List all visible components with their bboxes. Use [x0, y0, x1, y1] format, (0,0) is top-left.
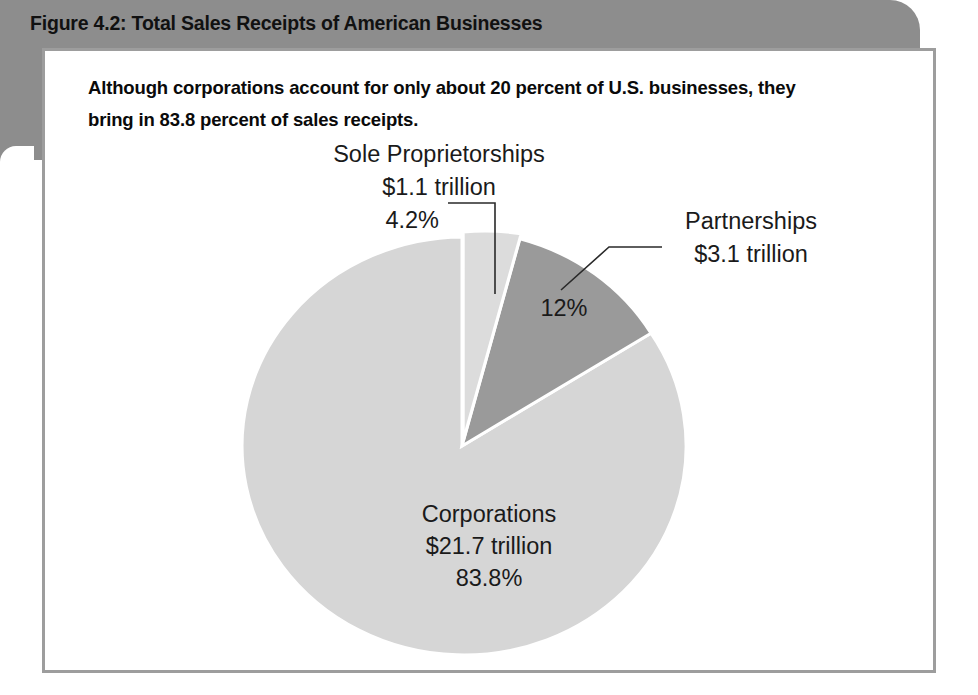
figure-content-card: Although corporations account for only a… [42, 48, 978, 695]
title-bar-notch-round [0, 146, 34, 180]
label-sole-proprietorships-value: $1.1 trillion [382, 174, 496, 200]
label-sole-proprietorships-percent: 4.2% [385, 207, 439, 233]
pie-chart: Sole Proprietorships $1.1 trillion 4.2% … [42, 48, 936, 673]
figure-title-bar: Figure 4.2: Total Sales Receipts of Amer… [0, 0, 920, 48]
label-corporations-percent: 83.8% [456, 565, 523, 591]
label-partnerships-value: $3.1 trillion [694, 241, 808, 267]
pie-chart-svg: Sole Proprietorships $1.1 trillion 4.2% … [42, 48, 936, 673]
label-sole-proprietorships-name: Sole Proprietorships [333, 141, 545, 167]
label-corporations-name: Corporations [422, 501, 557, 527]
label-partnerships-name: Partnerships [685, 208, 817, 234]
figure-title: Figure 4.2: Total Sales Receipts of Amer… [30, 12, 542, 35]
figure-root: Figure 4.2: Total Sales Receipts of Amer… [0, 0, 978, 695]
label-corporations-value: $21.7 trillion [426, 533, 553, 559]
label-partnerships-percent: 12% [540, 295, 587, 321]
